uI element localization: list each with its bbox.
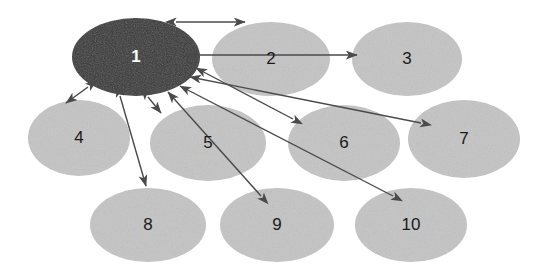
node-4[interactable]: [28, 100, 130, 176]
node-5[interactable]: [150, 105, 266, 181]
node-1[interactable]: [72, 18, 200, 96]
node-shape-1: [72, 18, 200, 96]
edge-1-to-5: [148, 97, 161, 113]
node-7[interactable]: [408, 100, 520, 178]
node-shape-6: [288, 105, 400, 181]
node-10[interactable]: [355, 188, 467, 262]
node-9[interactable]: [220, 188, 334, 262]
node-6[interactable]: [288, 105, 400, 181]
node-shape-9: [220, 188, 334, 262]
node-shape-10: [355, 188, 467, 262]
node-shape-7: [408, 100, 520, 178]
node-shape-3: [352, 22, 462, 96]
node-8[interactable]: [90, 188, 206, 262]
diagram-canvas: 12345678910: [0, 0, 547, 274]
node-3[interactable]: [352, 22, 462, 96]
node-shape-4: [28, 100, 130, 176]
node-shape-5: [150, 105, 266, 181]
node-link-diagram: 12345678910: [0, 0, 547, 274]
node-shape-8: [90, 188, 206, 262]
